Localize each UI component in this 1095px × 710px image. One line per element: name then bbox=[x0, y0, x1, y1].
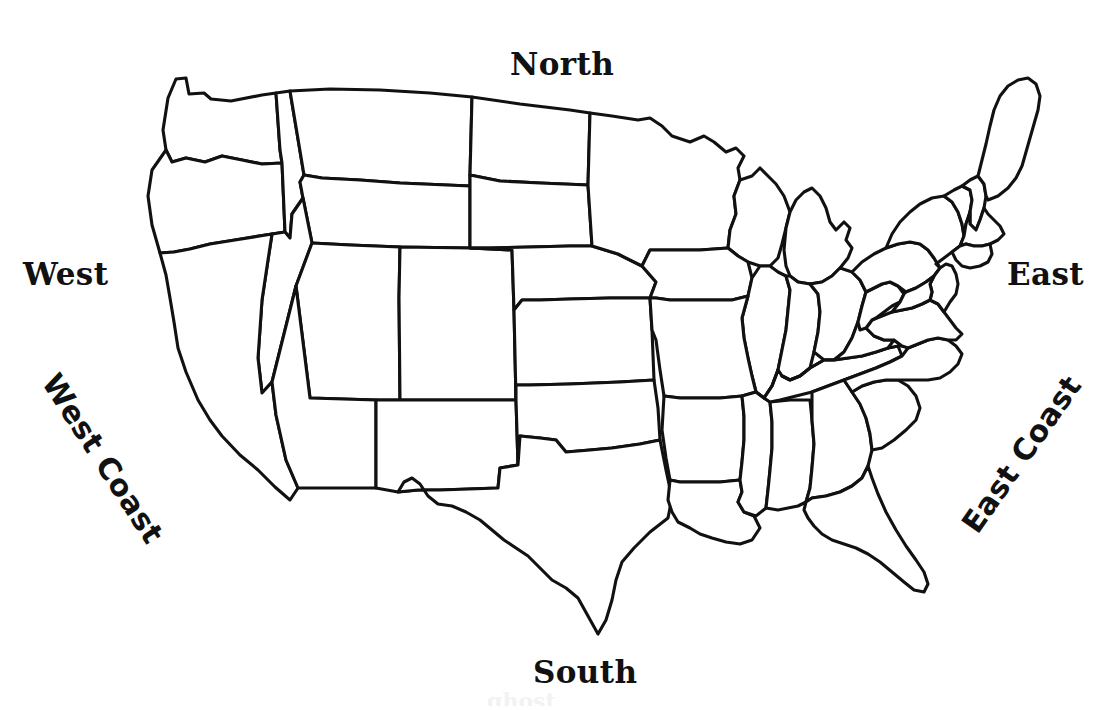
state-minnesota bbox=[588, 113, 744, 266]
map-label-south: South bbox=[533, 657, 637, 688]
state-utah bbox=[296, 243, 400, 400]
state-new-mexico bbox=[376, 400, 518, 492]
state-arkansas bbox=[662, 396, 744, 482]
state-north-dakota bbox=[470, 97, 590, 185]
map-label-north: North bbox=[510, 49, 614, 80]
state-south-dakota bbox=[470, 175, 592, 248]
us-outline-map: North South West East West Coast East Co… bbox=[0, 0, 1095, 710]
state-alabama bbox=[766, 400, 814, 510]
map-label-east: East bbox=[1007, 259, 1084, 290]
state-iowa bbox=[642, 248, 752, 300]
state-washington bbox=[163, 78, 282, 164]
watermark-ghost: ghost bbox=[487, 688, 612, 706]
state-colorado bbox=[399, 247, 516, 400]
state-maine bbox=[978, 78, 1040, 200]
map-label-west: West bbox=[23, 259, 108, 290]
state-connecticut-rhode-island bbox=[952, 244, 992, 268]
state-wyoming bbox=[300, 175, 470, 248]
state-missouri bbox=[650, 296, 756, 398]
us-map-svg bbox=[0, 0, 1095, 710]
state-montana bbox=[290, 89, 472, 186]
